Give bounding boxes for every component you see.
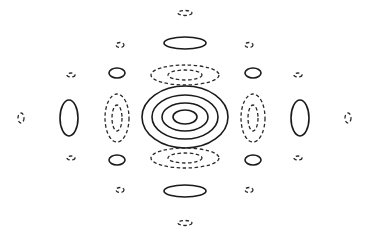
contour-bottom-neg-outer: [151, 148, 219, 168]
contour-diagram: [0, 0, 371, 238]
contour-top-neg-inner: [168, 70, 202, 80]
contour-left-pos: [60, 100, 78, 136]
contour-lower-left-pos: [109, 155, 125, 165]
contour-right-neg-inner: [248, 105, 258, 131]
contour-lower-right-tiny-neg: [245, 188, 253, 193]
contour-bottom-tiny-neg: [178, 221, 192, 226]
contour-top-tiny-neg: [178, 11, 192, 16]
contour-bottom-neg-inner: [168, 153, 202, 163]
contour-right-pos: [291, 100, 309, 136]
contour-left-neg-outer: [105, 94, 129, 142]
contour-upper-right-tiny-neg: [245, 43, 253, 48]
contour-center-ring-3: [162, 103, 208, 131]
contour-lower-right-pos: [245, 155, 261, 165]
contour-far-left-neg: [18, 113, 24, 123]
contour-top-pos: [164, 37, 206, 49]
contour-center-ring-4: [173, 110, 197, 124]
contour-mid-left-upper-tiny-neg: [67, 73, 75, 77]
contour-plot-canvas: [0, 0, 371, 238]
contour-upper-left-tiny-neg: [116, 43, 124, 48]
contour-upper-left-pos: [109, 68, 125, 78]
contour-right-neg-outer: [241, 94, 265, 142]
contour-far-right-neg: [345, 113, 351, 123]
contour-upper-right-pos: [245, 68, 261, 78]
contour-mid-right-lower-tiny-neg: [294, 156, 302, 160]
contour-lower-left-tiny-neg: [116, 188, 124, 193]
contour-bottom-pos: [164, 185, 206, 197]
contour-left-neg-inner: [112, 105, 122, 131]
contour-top-neg-outer: [151, 65, 219, 85]
contour-mid-left-lower-tiny-neg: [67, 156, 75, 160]
contour-mid-right-upper-tiny-neg: [294, 73, 302, 77]
